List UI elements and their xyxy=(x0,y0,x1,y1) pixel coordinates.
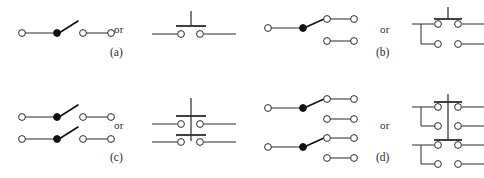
terminal xyxy=(178,31,185,38)
terminal xyxy=(197,121,204,128)
terminal xyxy=(80,30,87,37)
dpdt-pushbutton-switch xyxy=(410,93,484,171)
spst-pushbutton-switch xyxy=(148,8,242,46)
terminal xyxy=(265,105,272,112)
pivot-dot xyxy=(300,144,307,151)
pivot-dot xyxy=(54,30,61,37)
spst-lever-switch xyxy=(16,14,120,44)
terminal xyxy=(265,144,272,151)
panel-label-d: (d) xyxy=(376,151,389,163)
terminal xyxy=(324,155,331,162)
pivot-dot xyxy=(300,25,307,32)
terminal xyxy=(351,116,358,123)
terminal xyxy=(265,25,272,32)
terminal xyxy=(80,114,87,121)
dpst-pushbutton-switch xyxy=(148,94,242,150)
spdt-lever-switch xyxy=(262,10,372,52)
spdt-pushbutton-switch xyxy=(410,6,484,52)
terminal xyxy=(324,135,331,142)
terminal xyxy=(351,16,358,23)
dpdt-lever-switch xyxy=(262,94,372,170)
terminal xyxy=(19,30,26,37)
terminal xyxy=(351,96,358,103)
terminal xyxy=(324,38,331,45)
terminal xyxy=(455,21,462,28)
panel-label-c: (c) xyxy=(110,151,123,163)
terminal xyxy=(435,161,442,168)
terminal xyxy=(80,136,87,143)
terminal xyxy=(435,21,442,28)
panel-label-b: (b) xyxy=(376,46,389,58)
dpst-lever-switch xyxy=(16,103,120,151)
connector-or-d: or xyxy=(380,119,390,131)
terminal xyxy=(178,139,185,146)
terminal xyxy=(435,41,442,48)
terminal xyxy=(455,161,462,168)
terminal xyxy=(455,104,462,111)
panel-label-a: (a) xyxy=(110,46,123,58)
terminal xyxy=(197,31,204,38)
terminal xyxy=(324,96,331,103)
terminal xyxy=(197,139,204,146)
terminal xyxy=(351,155,358,162)
pivot-dot xyxy=(54,114,61,121)
terminal xyxy=(455,41,462,48)
terminal xyxy=(435,123,442,130)
panel-c: or (c) xyxy=(0,89,242,178)
pivot-dot xyxy=(54,136,61,143)
terminal xyxy=(351,38,358,45)
connector-or-a: or xyxy=(114,23,124,35)
terminal xyxy=(108,136,115,143)
panel-b: or (b) xyxy=(242,0,484,89)
connector-or-c: or xyxy=(114,119,124,131)
terminal xyxy=(19,114,26,121)
panel-d: or (d) xyxy=(242,89,484,178)
terminal xyxy=(455,123,462,130)
pivot-dot xyxy=(300,105,307,112)
terminal xyxy=(178,121,185,128)
panel-a: or (a) xyxy=(0,0,242,89)
terminal xyxy=(455,142,462,149)
terminal xyxy=(19,136,26,143)
terminal xyxy=(324,116,331,123)
terminal xyxy=(324,16,331,23)
connector-or-b: or xyxy=(380,23,390,35)
terminal xyxy=(435,104,442,111)
terminal xyxy=(435,142,442,149)
terminal xyxy=(351,135,358,142)
